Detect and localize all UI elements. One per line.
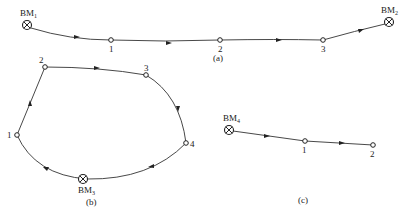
survey-point-icon — [43, 65, 48, 70]
point-label: 2 — [39, 55, 44, 65]
survey-point-icon — [184, 141, 189, 146]
survey-point-icon — [109, 38, 114, 43]
benchmark-label: BM1 — [20, 8, 37, 19]
benchmark-label: BM4 — [223, 113, 240, 124]
survey-point-icon — [15, 133, 20, 138]
caption-b: (b) — [86, 197, 97, 207]
direction-arrow-icon — [148, 164, 154, 168]
point-label: 3 — [144, 63, 149, 73]
point-label: 4 — [190, 139, 195, 149]
benchmark-bm1: BM1 — [20, 8, 37, 30]
leveling-routes-diagram: BM1 1 2 3 BM2 (a) 2 3 1 — [0, 0, 410, 218]
panel-c: BM4 1 2 (c) — [223, 113, 375, 205]
direction-arrow-icon — [264, 134, 270, 138]
point-label: 2 — [370, 149, 375, 159]
survey-point-icon — [321, 38, 326, 43]
survey-point-icon — [371, 143, 376, 148]
route-b-loop — [17, 67, 186, 179]
panel-a: BM1 1 2 3 BM2 (a) — [20, 5, 398, 63]
benchmark-bm2: BM2 — [381, 5, 398, 27]
point-label: 3 — [321, 44, 326, 54]
point-label: 1 — [302, 145, 307, 155]
survey-point-icon — [303, 139, 308, 144]
benchmark-label: BM3 — [78, 185, 95, 196]
caption-a: (a) — [213, 53, 223, 63]
point-label: 1 — [7, 130, 12, 140]
survey-point-icon — [218, 38, 223, 43]
survey-point-icon — [144, 73, 149, 78]
benchmark-label: BM2 — [381, 5, 398, 16]
route-a-line — [31, 24, 385, 41]
panel-b: 2 3 1 4 BM3 (b) — [7, 55, 195, 207]
direction-arrow-icon — [358, 29, 364, 33]
direction-arrow-icon — [339, 141, 345, 145]
point-label: 1 — [109, 44, 114, 54]
direction-arrow-icon — [276, 38, 282, 42]
caption-c: (c) — [298, 195, 308, 205]
benchmark-bm3: BM3 — [78, 175, 95, 197]
direction-arrow-icon — [166, 41, 172, 45]
